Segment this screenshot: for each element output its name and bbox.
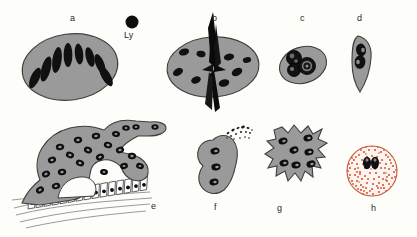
panel-label-a: a: [70, 14, 75, 23]
panel-f-cell: [198, 125, 253, 193]
panel-b-cell: [165, 12, 261, 112]
scale-reference-label-ly: Ly: [124, 31, 133, 40]
panel-c-cell: [275, 40, 332, 89]
panel-a-cell: [18, 28, 122, 107]
figure-canvas: [0, 0, 417, 237]
giant-cell-figure-plate: a Ly b c d e f g h: [0, 0, 417, 237]
panel-g-cytoplasm: [265, 125, 327, 181]
panel-label-e: e: [151, 202, 156, 211]
panel-a-cytoplasm: [18, 28, 122, 107]
panel-label-g: g: [277, 204, 282, 213]
panel-label-d: d: [357, 14, 362, 23]
panel-label-c: c: [300, 14, 305, 23]
lymphocyte-dot: [126, 16, 139, 29]
panel-label-f: f: [214, 203, 217, 212]
panel-g-cell: [265, 125, 327, 181]
panel-d-cell: [352, 36, 371, 92]
lymphocyte-reference-marker: [126, 16, 139, 29]
panel-h-cell: [347, 145, 397, 198]
panel-label-b: b: [212, 14, 217, 23]
panel-label-h: h: [371, 204, 376, 213]
panel-e-cell: [12, 120, 166, 228]
